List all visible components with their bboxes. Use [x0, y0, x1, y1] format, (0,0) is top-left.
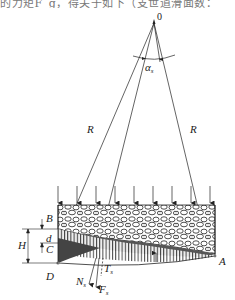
label-t-force: Ts — [104, 262, 113, 276]
normal-force-arrow-icon — [89, 258, 96, 284]
shear-force-line — [101, 258, 103, 276]
radius-lines — [75, 23, 198, 208]
dimension-lines — [22, 219, 58, 263]
angle-arc: αs — [133, 55, 175, 75]
radius-label-left: R — [86, 123, 94, 135]
label-c: C — [46, 243, 54, 255]
slope-stability-diagram: 0 αs R R — [0, 0, 235, 300]
radius-line-left — [75, 23, 154, 208]
label-b: B — [46, 212, 53, 224]
point-a-marker — [214, 255, 217, 258]
radius-label-right: R — [189, 123, 197, 135]
label-a: A — [218, 255, 226, 267]
label-n-force: Ns — [75, 275, 86, 289]
label-d-point: D — [45, 270, 54, 282]
radius-line-center — [154, 23, 160, 62]
angle-label: αs — [145, 61, 154, 75]
radius-line-right — [154, 23, 198, 208]
apex-point: 0 — [153, 11, 163, 24]
apex-label: 0 — [157, 11, 162, 22]
label-h: H — [17, 239, 27, 251]
radius-line-inner-left — [108, 23, 154, 208]
label-f-force: Fs — [98, 283, 109, 297]
